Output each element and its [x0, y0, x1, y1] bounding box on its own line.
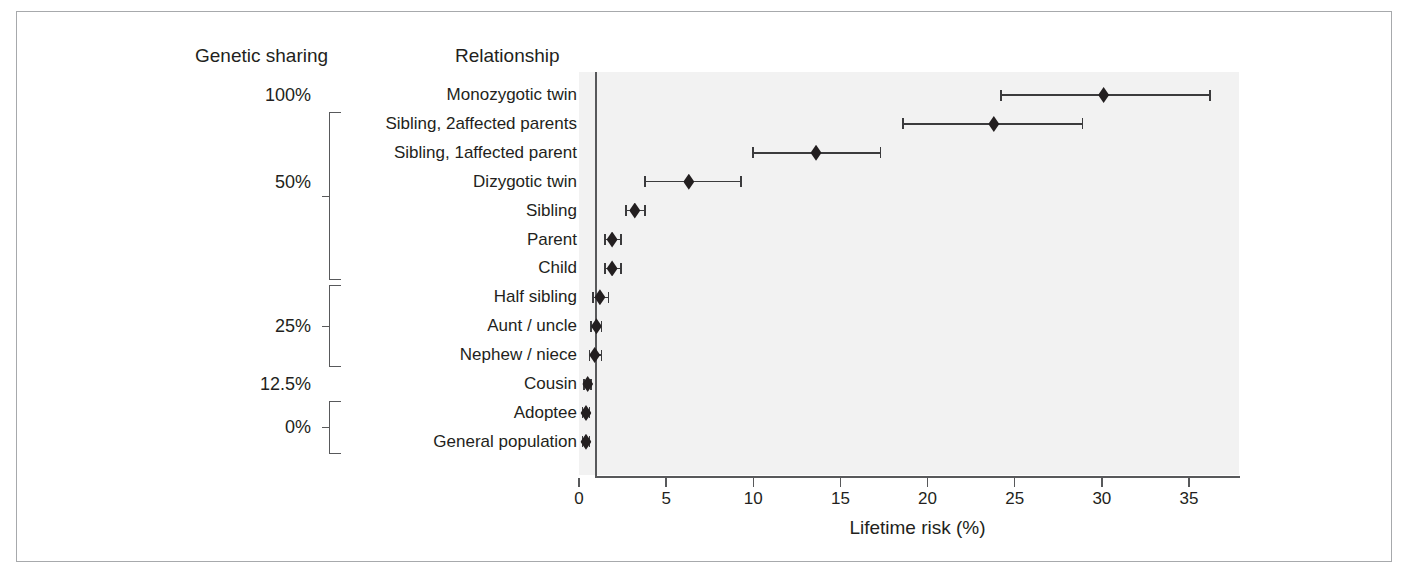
x-axis-tick — [665, 478, 666, 487]
relationship-column-header: Relationship — [455, 45, 560, 67]
relationship-label: Half sibling — [227, 287, 577, 307]
x-axis-tick-label: 10 — [744, 489, 763, 509]
relationship-label: Parent — [227, 230, 577, 250]
x-axis-tick-label: 0 — [574, 489, 583, 509]
bracket-50-percent-tick — [322, 196, 330, 197]
ci-cap-upper — [644, 205, 646, 216]
x-axis-tick-label: 35 — [1180, 489, 1199, 509]
relationship-label: Nephew / niece — [227, 345, 577, 365]
relationship-label: Adoptee — [227, 403, 577, 423]
plot-area — [579, 72, 1239, 475]
bracket-0-percent-tick — [322, 427, 330, 428]
x-axis-tick-label: 25 — [1005, 489, 1024, 509]
x-axis-tick — [578, 478, 579, 487]
x-axis-tick-label: 30 — [1092, 489, 1111, 509]
ci-cap-upper — [620, 234, 622, 245]
ci-cap-lower — [625, 205, 627, 216]
relationship-label: Sibling, 1affected parent — [227, 143, 577, 163]
x-axis-tick-label: 15 — [831, 489, 850, 509]
figure-frame: Genetic sharing Relationship 100%50%25%1… — [16, 11, 1392, 562]
relationship-label: Dizygotic twin — [227, 172, 577, 192]
ci-cap-upper — [620, 263, 622, 274]
relationship-label: Sibling, 2affected parents — [227, 114, 577, 134]
relationship-label: Child — [227, 258, 577, 278]
relationship-label: Monozygotic twin — [227, 85, 577, 105]
y-axis-line — [595, 72, 597, 477]
x-axis-tick — [927, 478, 928, 487]
relationship-label: Cousin — [227, 374, 577, 394]
x-axis-tick-label: 5 — [661, 489, 670, 509]
relationship-label: Sibling — [227, 201, 577, 221]
relationship-label: Aunt / uncle — [227, 316, 577, 336]
x-axis-tick — [1101, 478, 1102, 487]
ci-cap-lower — [604, 234, 606, 245]
bracket-50-percent — [329, 112, 341, 281]
x-axis-tick — [1014, 478, 1015, 487]
genetic-sharing-column-header: Genetic sharing — [195, 45, 328, 67]
x-axis-tick — [1188, 478, 1189, 487]
ci-cap-lower — [752, 147, 754, 158]
ci-cap-lower — [644, 176, 646, 187]
ci-cap-lower — [592, 292, 594, 303]
ci-cap-lower — [902, 118, 904, 129]
ci-cap-lower — [604, 263, 606, 274]
ci-cap-upper — [1082, 118, 1084, 129]
ci-cap-upper — [601, 350, 603, 361]
x-axis-tick-label: 20 — [918, 489, 937, 509]
ci-cap-upper — [608, 292, 610, 303]
ci-cap-upper — [880, 147, 882, 158]
x-axis-tick — [753, 478, 754, 487]
relationship-label: General population — [227, 432, 577, 452]
x-axis-title: Lifetime risk (%) — [595, 517, 1240, 539]
ci-cap-lower — [1000, 90, 1002, 101]
ci-cap-upper — [1209, 90, 1211, 101]
ci-cap-upper — [740, 176, 742, 187]
x-axis-tick — [840, 478, 841, 487]
x-axis-line — [595, 476, 1240, 478]
